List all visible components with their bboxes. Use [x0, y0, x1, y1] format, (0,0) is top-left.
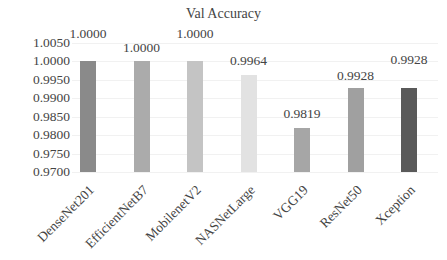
chart-title: Val Accuracy: [0, 6, 447, 22]
y-tick-label: 0.9900: [14, 90, 70, 106]
y-tick-label: 1.0000: [14, 53, 70, 69]
bar-xception: [401, 88, 417, 172]
value-label: 0.9928: [326, 68, 386, 84]
bar-efficientnetb7: [134, 61, 150, 172]
y-tick-label: 0.9800: [14, 127, 70, 143]
y-tick-label: 0.9700: [14, 164, 70, 180]
y-tick-label: 0.9850: [14, 109, 70, 125]
bar-resnet50: [348, 88, 364, 172]
value-label: 0.9928: [379, 52, 439, 68]
bar-vgg19: [294, 128, 310, 172]
y-tick-label: 0.9950: [14, 72, 70, 88]
gridline: [72, 172, 438, 173]
value-label: 1.0000: [165, 26, 225, 42]
bar-densenet201: [80, 61, 96, 172]
y-tick-label: 0.9750: [14, 146, 70, 162]
bar-nasnetlarge: [241, 75, 257, 172]
bar-mobilenetv2: [187, 61, 203, 172]
value-label: 1.0000: [58, 26, 118, 42]
value-label: 0.9819: [272, 106, 332, 122]
value-label: 1.0000: [112, 40, 172, 56]
value-label: 0.9964: [219, 53, 279, 69]
